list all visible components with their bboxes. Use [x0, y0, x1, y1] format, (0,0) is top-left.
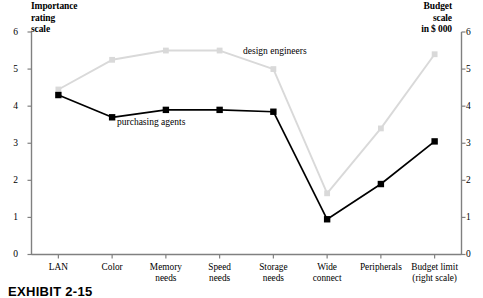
- series-design-engineers: [55, 48, 437, 197]
- left-axis-tick-label: 5: [6, 64, 18, 74]
- left-axis-tick-label: 6: [6, 27, 18, 37]
- left-axis-tick-label: 0: [6, 249, 18, 259]
- series-data-point: [431, 138, 437, 144]
- series-data-point: [378, 181, 384, 187]
- axes-group: [32, 32, 462, 255]
- series-purchasing-agents: [55, 92, 438, 223]
- series-data-point: [109, 57, 115, 63]
- series-data-point: [163, 107, 169, 113]
- series-data-point: [270, 66, 276, 72]
- left-axis-tick-label: 3: [6, 138, 18, 148]
- left-axis-title-line-1: Importance: [31, 1, 111, 13]
- left-axis-tick-label: 1: [6, 212, 18, 222]
- left-axis-tick-label: 2: [6, 175, 18, 185]
- series-group: [55, 48, 438, 223]
- right-axis-tick-label: 3: [466, 138, 478, 148]
- right-axis-title-line-2: scale: [378, 13, 452, 25]
- x-axis-category-label-line: Budget limit: [398, 262, 472, 273]
- dual-axis-line-chart: Importance rating scale Budget scale in …: [0, 0, 483, 298]
- x-axis-category-label-line: connect: [290, 273, 364, 284]
- series-line: [58, 51, 434, 194]
- plot-area: [0, 0, 483, 298]
- right-axis-tick-label: 4: [466, 101, 478, 111]
- right-axis-title: Budget scale in $ 000: [378, 1, 452, 36]
- series-data-point: [378, 126, 384, 132]
- series-data-point: [217, 48, 223, 54]
- series-data-point: [216, 107, 222, 113]
- series-label-design-engineers: design engineers: [243, 46, 307, 56]
- series-data-point: [270, 109, 276, 115]
- right-axis-tick-label: 0: [466, 249, 478, 259]
- left-axis-title-line-2: rating: [31, 13, 111, 25]
- right-axis-tick-label: 6: [466, 27, 478, 37]
- series-data-point: [55, 87, 61, 93]
- series-data-point: [324, 190, 330, 196]
- left-axis-title: Importance rating scale: [31, 1, 111, 36]
- x-axis-category-label-line: (right scale): [398, 273, 472, 284]
- series-data-point: [163, 48, 169, 54]
- right-axis-title-line-1: Budget: [378, 1, 452, 13]
- series-data-point: [324, 216, 330, 222]
- series-data-point: [55, 92, 61, 98]
- series-line: [58, 95, 434, 219]
- series-data-point: [109, 114, 115, 120]
- left-axis-tick-label: 4: [6, 101, 18, 111]
- left-axis-title-line-3: scale: [31, 24, 111, 36]
- series-data-point: [432, 51, 438, 57]
- exhibit-caption: EXHIBIT 2-15: [8, 284, 93, 298]
- right-axis-tick-label: 2: [466, 175, 478, 185]
- right-axis-title-line-3: in $ 000: [378, 24, 452, 36]
- x-axis-category-label: Budget limit(right scale): [398, 262, 472, 284]
- right-axis-tick-label: 1: [466, 212, 478, 222]
- series-label-purchasing-agents: purchasing agents: [117, 117, 185, 127]
- right-axis-tick-label: 5: [466, 64, 478, 74]
